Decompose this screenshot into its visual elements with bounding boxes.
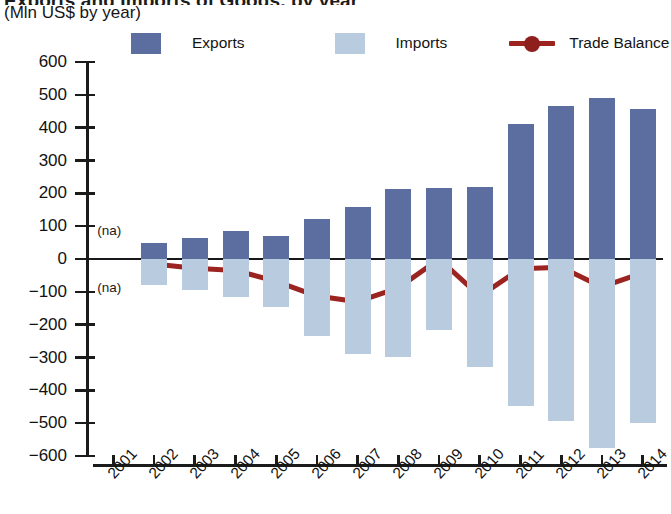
y-axis-label: −400	[0, 381, 67, 398]
bar-exports-2011	[508, 124, 534, 259]
legend-swatch-exports	[131, 33, 161, 54]
bar-exports-2013	[589, 98, 615, 259]
y-axis-label: −500	[0, 414, 67, 431]
bar-exports-2012	[548, 106, 574, 259]
bar-imports-2008	[385, 259, 411, 357]
y-axis-label: 400	[0, 119, 67, 136]
y-axis-label: 500	[0, 86, 67, 103]
y-axis-label: −100	[0, 283, 67, 300]
chart-legend: Exports Imports Trade Balance	[131, 30, 670, 56]
y-axis-tick	[75, 192, 95, 195]
y-axis-label: 600	[0, 53, 67, 70]
bar-imports-2004	[223, 259, 249, 297]
bar-exports-2005	[263, 236, 289, 259]
bar-exports-2003	[182, 238, 208, 259]
bar-exports-2004	[223, 231, 249, 259]
bar-imports-2002	[141, 259, 167, 285]
y-axis-tick	[75, 94, 95, 97]
y-axis-spine	[86, 62, 89, 456]
bar-exports-2014	[630, 109, 656, 259]
bar-imports-2003	[182, 259, 208, 290]
bar-exports-2007	[345, 207, 371, 259]
bar-imports-2012	[548, 259, 574, 421]
bar-imports-2013	[589, 259, 615, 448]
y-axis-label: −300	[0, 349, 67, 366]
y-axis-tick	[75, 225, 95, 228]
y-axis-tick	[75, 323, 95, 326]
trade-chart: Exports and Imports of Goods, by year (M…	[0, 0, 671, 514]
legend-label-exports: Exports	[192, 34, 245, 52]
na-label-upper: (na)	[97, 223, 121, 238]
bar-exports-2010	[467, 187, 493, 259]
y-axis-tick	[75, 61, 95, 64]
legend-item-exports[interactable]: Exports	[131, 33, 245, 54]
y-axis-tick	[75, 159, 95, 162]
bar-imports-2009	[426, 259, 452, 330]
chart-subtitle: (Mln US$ by year)	[4, 3, 141, 23]
bar-imports-2014	[630, 259, 656, 423]
y-axis-label: −600	[0, 447, 67, 464]
bar-imports-2006	[304, 259, 330, 336]
legend-item-imports[interactable]: Imports	[335, 33, 448, 54]
bar-imports-2005	[263, 259, 289, 307]
y-axis-label: 100	[0, 217, 67, 234]
y-axis-tick	[75, 356, 95, 359]
bar-imports-2010	[467, 259, 493, 367]
bar-exports-2009	[426, 188, 452, 259]
y-axis-tick	[75, 126, 95, 129]
plot-area: (na) (na)	[93, 62, 663, 456]
bar-exports-2008	[385, 189, 411, 259]
bar-imports-2011	[508, 259, 534, 406]
y-axis-tick	[75, 389, 95, 392]
y-axis-tick	[75, 455, 95, 458]
bar-exports-2006	[304, 219, 330, 259]
y-axis-label: −200	[0, 316, 67, 333]
na-label-lower: (na)	[97, 280, 121, 295]
bar-imports-2007	[345, 259, 371, 354]
y-axis-label: 0	[0, 250, 67, 267]
x-axis: 2001200220032004200520062007200820092010…	[93, 455, 667, 467]
bar-exports-2002	[141, 243, 167, 259]
y-axis-tick	[75, 291, 95, 294]
y-axis: 6005004003002001000−100−200−300−400−500−…	[75, 55, 95, 465]
legend-label-imports: Imports	[396, 34, 448, 52]
y-axis-label: 200	[0, 184, 67, 201]
zero-baseline	[93, 258, 663, 261]
y-axis-tick	[75, 422, 95, 425]
y-axis-tick	[75, 258, 95, 261]
legend-label-trade-balance: Trade Balance	[569, 34, 669, 52]
legend-marker-trade-balance	[509, 33, 555, 53]
y-axis-label: 300	[0, 152, 67, 169]
legend-swatch-imports	[335, 33, 365, 54]
legend-item-trade-balance[interactable]: Trade Balance	[509, 33, 669, 53]
